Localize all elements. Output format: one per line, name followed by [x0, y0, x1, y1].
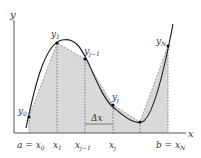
- tick-x0: a = x0: [17, 140, 45, 151]
- tick-x1: x1: [53, 140, 62, 151]
- label-y1: y1: [50, 29, 60, 40]
- x-axis-label: x: [188, 128, 194, 139]
- trapezoid-rule-diagram: y x y0 y1 yj−1 yj yN Δx a = x0 x1 xj−1 x…: [0, 0, 201, 158]
- label-yN: yN: [155, 36, 167, 47]
- label-yj: yj: [111, 92, 119, 104]
- delta-x-label: Δx: [90, 113, 103, 123]
- y-axis-label: y: [9, 9, 16, 20]
- tick-xj: xj: [109, 140, 116, 152]
- label-y0: y0: [17, 106, 27, 117]
- tick-xN: b = xN: [156, 140, 186, 151]
- tick-xj-1: xj−1: [75, 140, 91, 152]
